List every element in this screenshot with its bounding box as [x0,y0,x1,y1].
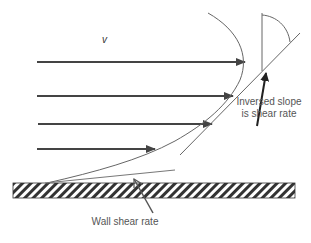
slope-label-line1: Inversed slope [224,96,311,108]
angle-arc [262,15,290,42]
velocity-profile-curve [47,13,243,183]
velocity-symbol: v [102,34,107,46]
slope-label: Inversed slope is shear rate [224,96,311,120]
slope-label-line2: is shear rate [224,108,311,120]
wall-shear-label: Wall shear rate [75,216,175,228]
profile-tangent-line [180,33,300,155]
wall [13,183,295,198]
velocity-arrows [37,62,245,149]
wall-tangent-line [45,170,175,183]
velocity-profile-diagram [0,0,311,243]
